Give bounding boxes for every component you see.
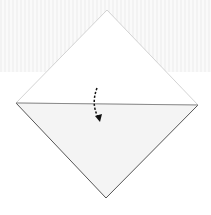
- lower-triangle: [16, 103, 198, 198]
- origami-diagram: [0, 0, 211, 215]
- upper-triangle: [16, 10, 198, 105]
